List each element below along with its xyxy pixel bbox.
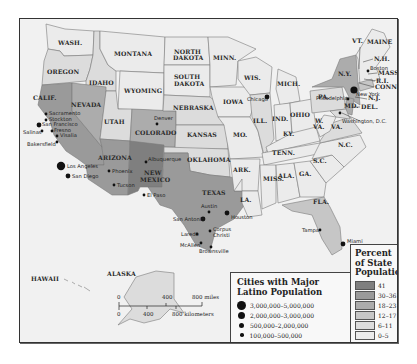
city-dot-phoenix [108, 170, 111, 173]
label-washington: Washington, D.C. [342, 118, 387, 125]
label-iowa: IOWA [223, 98, 243, 105]
swatch-icon [355, 321, 375, 330]
label-idaho: IDAHO [89, 79, 114, 86]
label-visalia: Visalia [60, 132, 77, 138]
city-dot-washington [339, 112, 342, 115]
label-nc: N.C. [338, 141, 353, 148]
label-sc: S.C. [313, 157, 327, 164]
state-miss [260, 165, 276, 209]
scale-miles-400: 400 [162, 294, 173, 300]
label-fla: FLA. [313, 198, 329, 205]
legend-percent: Percent of State Population 41 30–36 18–… [350, 244, 398, 343]
label-nh: N.H. [374, 55, 390, 62]
legend-percent-item: 18–23 [355, 301, 398, 311]
city-dot-austin [208, 211, 211, 214]
scale-km-400: 400 [143, 311, 154, 317]
label-arizona: ARIZONA [97, 154, 132, 161]
label-la: LA. [240, 196, 252, 203]
label-denver: Denver [154, 115, 174, 121]
label-south-dakota-1: SOUTH [174, 73, 200, 80]
label-boston: Boston [370, 65, 388, 71]
label-tucson: Tucson [116, 182, 135, 188]
label-new-york: New York [356, 91, 380, 97]
label-corpus-2: Christi [213, 232, 230, 238]
dot-largest-icon [237, 301, 246, 310]
label-calif: CALIF. [33, 94, 57, 101]
label-hawaii: HAWAII [31, 275, 59, 282]
city-dot-corpus-christi [209, 230, 212, 233]
city-dot-bakersfield [56, 141, 59, 144]
scale-miles-800: 800 miles [192, 294, 219, 300]
label-oklahoma: OKLAHOMA [187, 156, 231, 163]
legend-percent-item: 6–11 [355, 321, 398, 331]
city-dot-houston [225, 211, 230, 216]
legend-percent-item: 41 [355, 281, 398, 291]
city-dot-denver [156, 123, 159, 126]
city-dot-visalia [56, 135, 59, 138]
label-mo: MO. [233, 131, 247, 138]
city-dot-tampa [319, 229, 322, 232]
scale-miles-0: 0 [117, 294, 121, 300]
label-wash: WASH. [57, 39, 82, 46]
state-fla [282, 197, 342, 255]
label-ill: ILL. [253, 117, 267, 124]
label-san-diego: San Diego [72, 173, 99, 180]
city-dot-boston [367, 70, 370, 73]
label-wyoming: WYOMING [123, 87, 162, 94]
state-hawaii [64, 279, 90, 291]
label-brownsville: Brownsville [199, 248, 229, 254]
label-albuquerque: Albuquerque [148, 156, 181, 163]
label-philadelphia: Philadelphia [316, 95, 348, 102]
label-bakersfield: Bakersfield [27, 141, 56, 147]
state-ark [230, 159, 260, 191]
dot-large-icon [238, 312, 245, 319]
label-ark: ARK. [232, 166, 251, 173]
label-ky: KY. [283, 130, 294, 137]
label-montana: MONTANA [114, 50, 152, 57]
label-colorado: COLORADO [135, 129, 177, 136]
scale-km-800: 800 kilometers [172, 311, 214, 317]
legend-percent-item: 30–36 [355, 291, 398, 301]
swatch-icon [355, 311, 375, 320]
label-chicago: Chicago [247, 96, 268, 103]
legend-percent-title-3: Population [355, 268, 398, 278]
dot-medium-icon [239, 323, 244, 328]
label-austin: Austin [201, 203, 217, 209]
state-mich [276, 69, 300, 105]
label-ala: ALA. [277, 172, 295, 179]
legend-percent-item: 12–17 [355, 311, 398, 321]
label-tenn: TENN. [272, 149, 295, 156]
label-va: VA. [330, 123, 343, 130]
label-ga: GA. [299, 170, 312, 177]
legend-percent-item: 0–5 [355, 331, 398, 341]
label-los-angeles: Los Angeles [67, 163, 98, 170]
label-san-antonio: San Antonio [173, 216, 204, 222]
city-dot-fresno [51, 130, 54, 133]
label-el-paso: El Paso [147, 192, 165, 198]
label-maine: MAINE [367, 38, 393, 45]
label-laredo: Laredo [181, 231, 199, 237]
city-dot-albuquerque [145, 161, 148, 164]
label-minn: MINN. [213, 54, 236, 61]
legend-cities: Cities with Major Latino Population 3,00… [230, 272, 369, 343]
scale-km-0: 0 [117, 311, 121, 317]
label-md: MD. [344, 102, 358, 109]
label-new-mexico-2: MEXICO [140, 176, 171, 183]
label-alaska: ALASKA [106, 270, 136, 277]
label-texas: TEXAS [202, 189, 226, 196]
label-nebraska: NEBRASKA [173, 104, 214, 111]
label-ind: IND. [272, 115, 288, 122]
label-new-mexico-1: NEW [144, 169, 163, 176]
label-south-dakota-2: DAKOTA [174, 80, 205, 87]
label-conn: CONN. [375, 83, 397, 90]
label-tampa: Tampa [301, 227, 319, 234]
label-phoenix: Phoenix [112, 168, 133, 174]
label-nevada: NEVADA [71, 101, 101, 108]
label-wis: WIS. [243, 74, 261, 81]
city-dot-el-paso [143, 194, 146, 197]
label-kansas: KANSAS [187, 131, 217, 138]
label-del: DEL. [361, 103, 378, 110]
swatch-icon [355, 291, 375, 300]
city-dot-los-angeles [57, 162, 65, 170]
city-dot-tucson [113, 184, 116, 187]
